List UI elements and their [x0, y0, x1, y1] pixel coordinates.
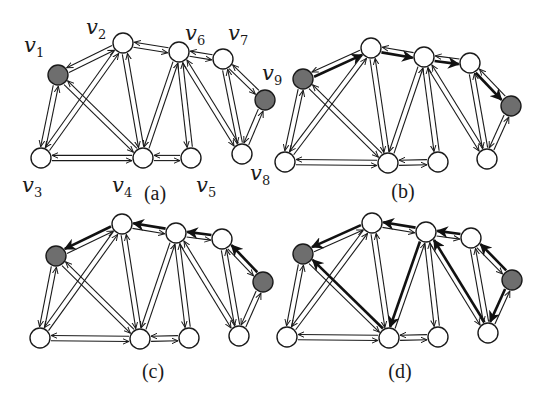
edge-arrow-v6-v7 [187, 237, 211, 240]
node-v2 [362, 213, 382, 233]
panel-c: (c) [30, 214, 273, 383]
node-v6 [166, 223, 186, 243]
node-v2 [112, 214, 132, 234]
edge-arrow-v9-v7 [233, 65, 259, 91]
edge-arrow-v8-v6 [434, 240, 484, 322]
node-v6 [414, 47, 434, 67]
edge-arrow-v1-v4 [64, 85, 133, 153]
edge-arrow-v6-v7 [435, 61, 459, 64]
panel-caption: (b) [391, 180, 414, 203]
edge-arrow-v4-v5 [400, 340, 427, 341]
edge-arrow-v2-v1 [65, 226, 111, 248]
edge-arrow-v4-v6 [146, 244, 175, 329]
edge-arrow-v7-v6 [437, 231, 460, 234]
node-v6 [169, 42, 189, 62]
node-label-v8: v8 [250, 161, 270, 188]
edge-arrow-v6-v7 [189, 56, 211, 60]
node-v6 [416, 222, 436, 242]
edge-arrow-v4-v6 [149, 63, 178, 148]
node-v3 [275, 152, 295, 172]
edge-arrow-v4-v3 [296, 160, 377, 161]
edge-arrow-v6-v2 [382, 47, 413, 52]
edge-arrow-v4-v3 [51, 336, 129, 337]
edge-arrow-v4-v5 [399, 165, 427, 166]
node-v8 [229, 326, 249, 346]
edge-arrow-v2-v6 [382, 227, 414, 232]
node-v4 [378, 153, 398, 173]
edge-arrow-v5-v4 [400, 335, 427, 336]
node-v9 [501, 96, 521, 116]
panel-b: (b) [275, 38, 521, 203]
edge-arrow-v4-v3 [298, 335, 378, 336]
edge-arrow-v7-v9 [476, 73, 502, 100]
edge-arrow-v6-v4 [390, 242, 420, 327]
edge-arrow-v3-v4 [296, 165, 377, 166]
edge-arrow-v5-v4 [151, 336, 178, 337]
edge-arrow-v6-v7 [437, 236, 460, 239]
edge-arrow-v2-v6 [132, 228, 164, 233]
edge-arrow-v2-v1 [67, 46, 112, 68]
edge-arrow-v5-v6 [430, 243, 440, 326]
node-v9 [253, 272, 273, 292]
edge-arrow-v6-v5 [423, 68, 434, 151]
edge-arrow-v3-v4 [51, 341, 129, 342]
node-v8 [478, 323, 498, 343]
edge-arrow-v6-v8 [430, 243, 480, 325]
node-v7 [212, 229, 232, 249]
edge-arrow-v5-v6 [428, 68, 439, 151]
edge-arrow-v5-v4 [399, 160, 427, 161]
edge-arrow-v7-v9 [228, 249, 254, 276]
edge-arrow-v2-v6 [381, 52, 412, 57]
edge-arrow-v6-v2 [133, 223, 165, 228]
node-v3 [30, 328, 50, 348]
edge-arrow-v4-v5 [151, 341, 178, 342]
edge-arrow-v7-v8 [469, 74, 482, 148]
edge-arrow-v6-v5 [175, 244, 185, 327]
node-v4 [130, 329, 150, 349]
node-v5 [428, 327, 448, 347]
node-v1 [293, 69, 313, 89]
edge-arrow-v4-v1 [313, 85, 382, 154]
node-label-v9: v9 [262, 61, 282, 88]
node-label-v6: v6 [185, 21, 205, 48]
edge-arrow-v1-v3 [40, 266, 52, 326]
node-v1 [293, 244, 313, 264]
node-v9 [502, 270, 522, 290]
node-v5 [181, 148, 201, 168]
panel-caption: (d) [388, 360, 411, 383]
graph-figure: v1v2v3v4v5v6v7v8v9(a) (b) (c) (d) [0, 0, 544, 411]
edge-arrow-v7-v6 [190, 51, 212, 55]
node-v5 [428, 152, 448, 172]
edge-arrow-v9-v7 [481, 244, 507, 270]
edge-arrow-v4-v1 [313, 260, 383, 329]
panel-caption: (c) [142, 360, 164, 383]
edge-arrow-v6-v8 [180, 244, 232, 328]
edge-arrow-v7-v6 [187, 232, 211, 235]
node-v4 [133, 148, 153, 168]
node-label-v3: v3 [22, 173, 42, 200]
panel-d: (d) [277, 213, 522, 383]
edge-arrow-v1-v4 [62, 266, 130, 334]
edge-arrow-v4-v1 [66, 262, 134, 330]
panel-caption: (a) [144, 182, 166, 205]
node-v7 [213, 49, 233, 69]
edge-arrow-v4-v6 [395, 243, 425, 328]
edge-arrow-v6-v8 [428, 68, 479, 151]
node-v3 [31, 148, 51, 168]
edge-arrow-v6-v8 [183, 63, 234, 146]
node-v9 [255, 90, 275, 110]
node-v7 [461, 228, 481, 248]
edge-arrow-v7-v9 [229, 69, 255, 95]
edge-arrow-v9-v7 [231, 245, 257, 272]
edge-arrow-v4-v1 [68, 81, 137, 149]
edge-arrow-v3-v4 [298, 340, 378, 341]
edge-arrow-v6-v4 [141, 243, 170, 328]
node-label-v7: v7 [228, 21, 248, 48]
edge-arrow-v1-v3 [41, 85, 54, 146]
node-v4 [379, 328, 399, 348]
edge-arrow-v3-v1 [292, 265, 304, 326]
node-label-v5: v5 [196, 173, 216, 200]
node-label-v1: v1 [24, 33, 44, 60]
node-v8 [232, 144, 252, 164]
edge-arrow-v8-v6 [187, 60, 238, 143]
